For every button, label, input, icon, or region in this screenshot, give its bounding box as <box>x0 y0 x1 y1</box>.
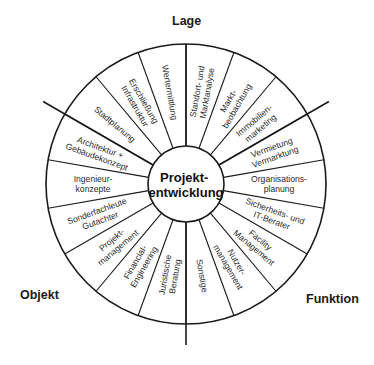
center-label-line-1: Projekt- <box>160 170 208 185</box>
segment-label: Wertermittlung <box>160 64 180 121</box>
segment-label: JuristischeBeratung <box>157 254 184 298</box>
segment-label: Stadtplanung <box>92 104 137 144</box>
segment-label: Architektur +Gebäudekonzept <box>64 132 133 173</box>
segment-label-line: konzepte <box>76 184 111 194</box>
segment-label: VermietungVermarktung <box>247 134 300 170</box>
sector-title-lage: Lage <box>172 14 201 28</box>
segment-label-line: Ingenieur- <box>74 174 113 184</box>
segment-label-line: Sonstige <box>194 258 210 293</box>
segment-label: Ingenieur-konzepte <box>74 174 113 194</box>
segment-label-line: Stadtplanung <box>92 104 137 144</box>
segment-label: ErschließungInfrastruktur <box>118 77 161 131</box>
segment-label-line: Wertermittlung <box>160 64 180 121</box>
center-label-line-2: entwicklung <box>148 185 223 200</box>
segment-label: Sonstige <box>194 258 210 293</box>
segment-label-line: Organisations- <box>251 174 307 184</box>
project-development-wheel: Standort- undMarktanalyseMarkt-beobachtu… <box>0 0 374 365</box>
segment-label: Organisations-planung <box>251 174 307 194</box>
segment-label-line: planung <box>264 184 295 194</box>
sector-title-objekt: Objekt <box>20 288 59 302</box>
sector-title-funktion: Funktion <box>306 292 359 306</box>
